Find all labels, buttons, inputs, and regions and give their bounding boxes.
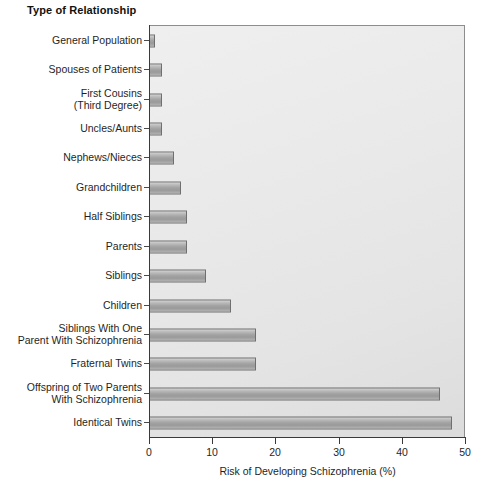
x-axis-line bbox=[149, 437, 466, 438]
chart-title: Type of Relationship bbox=[27, 4, 136, 16]
y-tick-mark bbox=[144, 305, 149, 306]
bar-row bbox=[149, 232, 465, 261]
bar-row bbox=[149, 350, 465, 379]
bar bbox=[149, 93, 162, 106]
x-tick-mark bbox=[465, 438, 466, 444]
x-tick-label: 20 bbox=[269, 446, 281, 458]
bar-row bbox=[149, 85, 465, 114]
chart-figure: Type of Relationship General PopulationS… bbox=[0, 0, 481, 494]
bar bbox=[149, 358, 256, 371]
bar bbox=[149, 64, 162, 77]
bar bbox=[149, 240, 187, 253]
y-tick-mark bbox=[144, 187, 149, 188]
x-tick-label: 0 bbox=[146, 446, 152, 458]
bar bbox=[149, 417, 452, 430]
y-axis-label: Fraternal Twins bbox=[2, 357, 142, 369]
y-tick-mark bbox=[144, 393, 149, 394]
y-axis-label: Nephews/Nieces bbox=[2, 151, 142, 163]
bar-row bbox=[149, 114, 465, 143]
y-tick-mark bbox=[144, 275, 149, 276]
y-axis-label: Uncles/Aunts bbox=[2, 122, 142, 134]
y-tick-mark bbox=[144, 363, 149, 364]
y-axis-label: Half Siblings bbox=[2, 210, 142, 222]
y-axis-label: General Population bbox=[2, 34, 142, 46]
bar bbox=[149, 211, 187, 224]
x-tick-mark bbox=[402, 438, 403, 444]
bar bbox=[149, 270, 206, 283]
y-axis-label: Spouses of Patients bbox=[2, 63, 142, 75]
y-axis-label: Offspring of Two Parents With Schizophre… bbox=[2, 381, 142, 405]
bar bbox=[149, 328, 256, 341]
y-axis-label: Parents bbox=[2, 240, 142, 252]
bar bbox=[149, 181, 181, 194]
y-tick-mark bbox=[144, 246, 149, 247]
bar-row bbox=[149, 55, 465, 84]
y-tick-mark bbox=[144, 99, 149, 100]
bar-row bbox=[149, 291, 465, 320]
bar-row bbox=[149, 409, 465, 438]
x-tick-label: 30 bbox=[333, 446, 345, 458]
y-tick-mark bbox=[144, 422, 149, 423]
x-axis-title: Risk of Developing Schizophrenia (%) bbox=[149, 465, 466, 477]
bar-row bbox=[149, 379, 465, 408]
y-axis-label: Siblings With One Parent With Schizophre… bbox=[2, 322, 142, 346]
x-tick-label: 10 bbox=[206, 446, 218, 458]
x-tick-label: 40 bbox=[396, 446, 408, 458]
bar-row bbox=[149, 26, 465, 55]
bar bbox=[149, 122, 162, 135]
y-axis-label: Siblings bbox=[2, 269, 142, 281]
bar-row bbox=[149, 320, 465, 349]
x-tick-mark bbox=[339, 438, 340, 444]
y-axis-label: Identical Twins bbox=[2, 416, 142, 428]
y-axis-label: Children bbox=[2, 299, 142, 311]
y-axis-label: First Cousins (Third Degree) bbox=[2, 87, 142, 111]
y-tick-mark bbox=[144, 334, 149, 335]
y-tick-mark bbox=[144, 40, 149, 41]
bar bbox=[149, 152, 174, 165]
y-tick-mark bbox=[144, 69, 149, 70]
x-tick-label: 50 bbox=[459, 446, 471, 458]
bar bbox=[149, 387, 440, 400]
x-tick-mark bbox=[275, 438, 276, 444]
y-axis-label: Grandchildren bbox=[2, 181, 142, 193]
bar-row bbox=[149, 144, 465, 173]
bar bbox=[149, 299, 231, 312]
plot-area bbox=[149, 25, 465, 437]
bar-row bbox=[149, 261, 465, 290]
x-tick-mark bbox=[212, 438, 213, 444]
y-axis-line bbox=[149, 25, 150, 438]
x-tick-mark bbox=[149, 438, 150, 444]
y-tick-mark bbox=[144, 157, 149, 158]
bar-row bbox=[149, 173, 465, 202]
y-tick-mark bbox=[144, 216, 149, 217]
bar-row bbox=[149, 203, 465, 232]
y-tick-mark bbox=[144, 128, 149, 129]
